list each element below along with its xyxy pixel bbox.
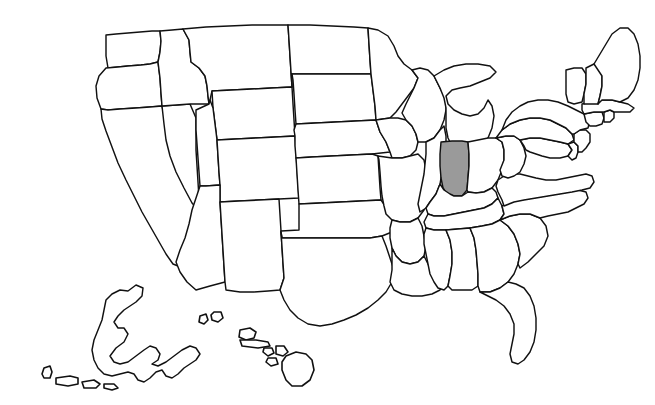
aleutian-island-1[interactable] — [42, 366, 52, 378]
state-colorado[interactable] — [217, 136, 299, 202]
state-washington[interactable] — [106, 31, 161, 68]
state-kansas[interactable] — [296, 154, 381, 204]
aleutian-island-2[interactable] — [56, 376, 78, 386]
state-oregon[interactable] — [96, 62, 162, 110]
us-map-svg — [0, 0, 655, 405]
us-states-map-figure — [0, 0, 655, 405]
hawaii-island-big-island[interactable] — [282, 352, 314, 386]
state-nebraska[interactable] — [294, 120, 390, 158]
aleutian-island-4[interactable] — [104, 384, 118, 390]
state-indiana[interactable] — [440, 141, 469, 196]
state-wyoming[interactable] — [212, 87, 295, 140]
hawaii-island-oahu[interactable] — [239, 328, 256, 340]
state-south-dakota[interactable] — [292, 74, 376, 124]
state-new-mexico[interactable] — [220, 199, 284, 292]
state-vermont[interactable] — [566, 68, 586, 104]
hawaii-island-molokai[interactable] — [240, 340, 270, 348]
